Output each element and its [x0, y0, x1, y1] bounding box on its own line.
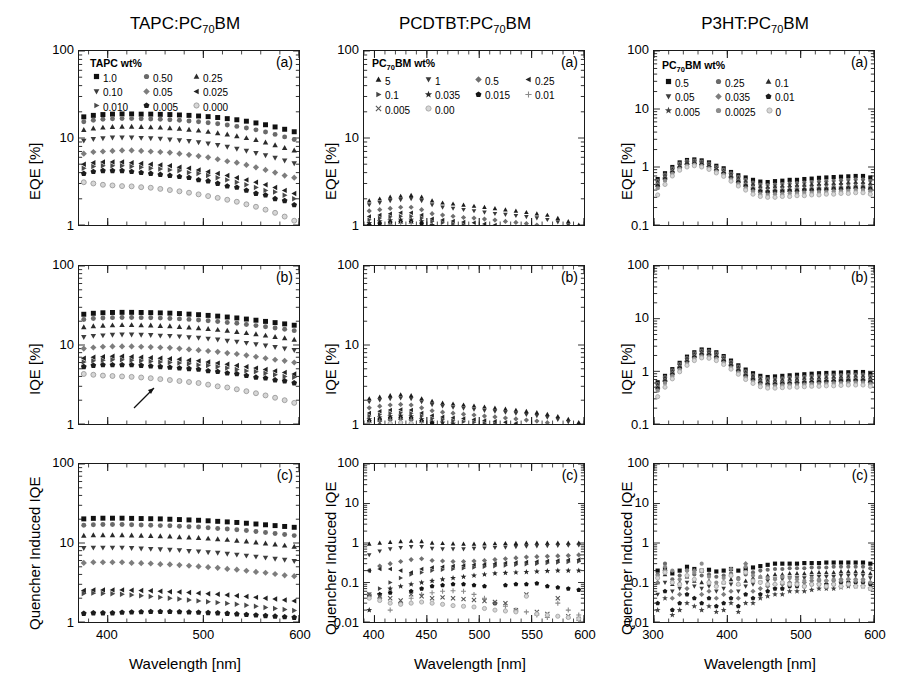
legend-symbol-icon	[472, 74, 485, 89]
column-title-pcdtbt: PCDTBT:PC70BM	[340, 14, 590, 35]
legend-symbol-icon	[662, 76, 675, 91]
legend-label: 0.035	[725, 91, 755, 105]
legend-label: 0.035	[435, 89, 465, 103]
legend-label: 0.00	[435, 104, 465, 118]
legend-item-0.25: 0.25	[522, 74, 565, 89]
column-title-tapc: TAPC:PC70BM	[60, 14, 310, 35]
legend-item-0.1: 0.1	[372, 89, 415, 104]
legend-label: 0.5	[675, 77, 705, 91]
legend-symbol-icon	[522, 89, 535, 104]
y-tick-label: 100	[36, 257, 74, 272]
legend-symbol-icon	[90, 71, 103, 86]
legend-item-0.01: 0.01	[762, 91, 805, 106]
legend-symbol-icon	[422, 74, 435, 89]
column-title-p3ht: P3HT:PC70BM	[630, 14, 880, 35]
y-tick-label: 100	[321, 257, 359, 272]
legend-symbol-icon	[140, 100, 153, 115]
legend-label: 0	[776, 106, 806, 120]
plot-panel-pcdtbt-iqe: (b)	[363, 265, 585, 425]
y-axis-title-qiqe: Quencher Induced IQE	[26, 477, 43, 630]
x-tick-label: 550	[510, 627, 554, 642]
legend-label: 0.000	[203, 101, 233, 115]
legend-item-0.5: 0.5	[662, 76, 705, 91]
legend-item-0.005: 0.005	[140, 100, 183, 115]
legend-tapc: TAPC wt%1.00.500.250.100.050.0250.0100.0…	[90, 56, 295, 115]
series-0.00	[367, 594, 581, 621]
series-0.000	[81, 180, 296, 223]
legend-label: 0.1	[385, 89, 415, 103]
plot-panel-p3ht-iqe: (b)	[653, 265, 875, 425]
panel-label-pcdtbt-qiqe: (c)	[562, 467, 578, 483]
x-axis-title-col1: Wavelength [nm]	[70, 655, 300, 672]
series-1	[367, 396, 571, 424]
legend-label: 1.0	[103, 72, 133, 86]
x-axis-title-col3: Wavelength [nm]	[645, 655, 875, 672]
legend-symbol-icon	[372, 89, 385, 104]
y-tick-label: 1	[36, 417, 74, 432]
legend-symbol-icon	[522, 74, 535, 89]
legend-label: 0.50	[153, 72, 183, 86]
legend-row: 0.0050.00	[372, 103, 584, 118]
legend-label: 5	[385, 75, 415, 89]
legend-row: 0.50.250.1	[662, 76, 862, 91]
legend-item-0.10: 0.10	[90, 86, 133, 101]
plot-panel-pcdtbt-qiqe: (c)	[363, 463, 585, 623]
y-tick-label: 1	[36, 218, 74, 233]
legend-item-0.0025: 0.0025	[712, 105, 756, 120]
legend-symbol-icon	[190, 100, 203, 115]
legend-symbol-icon	[190, 86, 203, 101]
x-tick-label: 600	[563, 627, 607, 642]
legend-row: 1.00.500.25	[90, 71, 295, 86]
legend-label: 0.005	[675, 106, 705, 120]
legend-item-0.00: 0.00	[422, 103, 465, 118]
y-tick-label: 0.1	[321, 575, 359, 590]
legend-label: 0.01	[775, 91, 805, 105]
panel-label-p3ht-qiqe: (c)	[852, 467, 868, 483]
y-tick-label: 10	[611, 101, 649, 116]
legend-item-0.50: 0.50	[140, 71, 183, 86]
legend-label: 0.05	[153, 86, 183, 100]
y-tick-label: 100	[611, 257, 649, 272]
legend-item-0.25: 0.25	[190, 71, 233, 86]
y-tick-label: 10	[611, 495, 649, 510]
legend-label: 0.25	[535, 75, 565, 89]
x-tick-label: 600	[853, 627, 897, 642]
y-tick-label: 10	[36, 535, 74, 550]
legend-label: 0.25	[725, 77, 755, 91]
y-tick-label: 100	[321, 455, 359, 470]
y-tick-label: 1	[36, 615, 74, 630]
y-tick-label: 10	[321, 337, 359, 352]
y-tick-label: 1	[321, 218, 359, 233]
legend-symbol-icon	[662, 105, 675, 120]
legend-symbol-icon	[140, 86, 153, 101]
legend-symbol-icon	[422, 103, 435, 118]
x-tick-label: 600	[278, 627, 322, 642]
y-tick-label: 10	[611, 310, 649, 325]
y-tick-label: 100	[321, 42, 359, 57]
legend-symbol-icon	[422, 89, 435, 104]
legend-item-0.035: 0.035	[712, 91, 755, 106]
legend-symbol-icon	[763, 105, 776, 120]
legend-label: 0.1	[775, 77, 805, 91]
plot-panel-p3ht-qiqe: (c)	[653, 463, 875, 623]
legend-label: 0.01	[535, 89, 565, 103]
legend-label: 0.005	[153, 101, 183, 115]
legend-symbol-icon	[472, 89, 485, 104]
legend-item-0.000: 0.000	[190, 100, 233, 115]
legend-item-0.005: 0.005	[372, 103, 415, 118]
series-1	[367, 197, 571, 225]
legend-row: 0.0050.00250	[662, 105, 862, 120]
legend-symbol-icon	[712, 105, 725, 120]
x-tick-label: 400	[705, 627, 749, 642]
legend-item-0: 0	[763, 105, 806, 120]
legend-label: 0.5	[485, 75, 515, 89]
series-0.005	[81, 609, 297, 620]
x-axis-title-col2: Wavelength [nm]	[355, 655, 585, 672]
legend-item-0.05: 0.05	[662, 91, 705, 106]
legend-label: 0.10	[103, 86, 133, 100]
y-tick-label: 100	[36, 42, 74, 57]
x-tick-label: 400	[352, 627, 396, 642]
x-tick-label: 450	[404, 627, 448, 642]
y-tick-label: 10	[36, 337, 74, 352]
x-tick-label: 500	[181, 627, 225, 642]
